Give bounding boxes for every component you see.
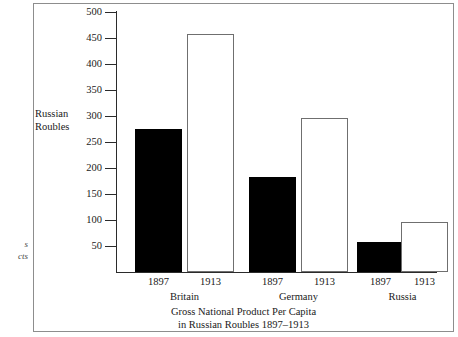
- y-axis-tick-label: 200: [66, 163, 102, 173]
- chart-page: { "margin_note": { "line1": "s", "line2"…: [0, 0, 458, 337]
- y-axis-tick: [105, 142, 116, 143]
- y-axis-tick-label: 350: [66, 85, 102, 95]
- bar-britain-1897: [135, 129, 182, 272]
- x-axis-year-label: 1897: [250, 276, 296, 287]
- y-axis-tick: [105, 12, 116, 13]
- margin-note-line-2: cts: [0, 250, 31, 262]
- y-axis-tick: [105, 38, 116, 39]
- x-axis-year-label: 1913: [188, 276, 234, 287]
- margin-note: s cts: [0, 238, 31, 262]
- y-axis-tick-label: 400: [66, 59, 102, 69]
- margin-note-line-1: s: [0, 238, 31, 250]
- y-axis-tick: [105, 246, 116, 247]
- y-axis-line: [116, 11, 117, 273]
- y-axis-tick-label: 300: [66, 111, 102, 121]
- y-axis-tick: [105, 168, 116, 169]
- x-axis-year-label: 1913: [302, 276, 348, 287]
- bar-germany-1897: [249, 177, 296, 272]
- y-axis-tick: [105, 194, 116, 195]
- y-axis-title-line-2: Roubles: [35, 121, 97, 134]
- chart-caption: Gross National Product Per Capita in Rus…: [33, 305, 454, 331]
- x-axis-year-label: 1913: [402, 276, 448, 287]
- x-axis-group-label-germany: Germany: [244, 291, 354, 302]
- y-axis-tick-label: 100: [66, 215, 102, 225]
- y-axis-tick-label: 50: [66, 241, 102, 251]
- y-axis-tick: [105, 90, 116, 91]
- bar-russia-1897: [357, 242, 404, 272]
- y-axis-tick-label: 250: [66, 137, 102, 147]
- y-axis-tick-label: 150: [66, 189, 102, 199]
- y-axis-tick-label: 500: [66, 7, 102, 17]
- x-axis-group-label-russia: Russia: [348, 291, 458, 302]
- x-axis-year-label: 1897: [358, 276, 404, 287]
- y-axis-tick-label: 450: [66, 33, 102, 43]
- bar-germany-1913: [301, 118, 348, 272]
- chart-caption-line-2: in Russian Roubles 1897–1913: [33, 318, 454, 331]
- bar-britain-1913: [187, 34, 234, 272]
- x-axis-line: [116, 272, 437, 273]
- x-axis-year-label: 1897: [136, 276, 182, 287]
- bar-russia-1913: [401, 222, 448, 272]
- y-axis-tick: [105, 64, 116, 65]
- y-axis-tick: [105, 220, 116, 221]
- y-axis-tick: [105, 116, 116, 117]
- x-axis-group-label-britain: Britain: [130, 291, 240, 302]
- chart-caption-line-1: Gross National Product Per Capita: [33, 305, 454, 318]
